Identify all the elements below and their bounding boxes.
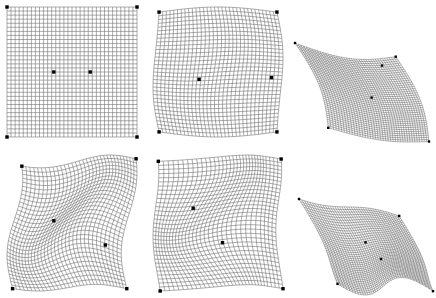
control-point-marker[interactable] bbox=[157, 10, 160, 13]
control-point-marker[interactable] bbox=[125, 287, 128, 290]
mesh-row-line bbox=[153, 79, 282, 81]
mesh-col-line bbox=[207, 7, 214, 137]
mesh-row-line bbox=[7, 239, 121, 258]
control-point-marker[interactable] bbox=[398, 215, 400, 217]
mesh-row-line bbox=[153, 75, 282, 77]
sheared-wave-surface-lattice bbox=[296, 196, 436, 298]
mesh-lines bbox=[7, 7, 137, 137]
control-point-marker[interactable] bbox=[135, 5, 138, 8]
mesh-lines bbox=[153, 7, 283, 137]
mesh-canvas bbox=[292, 40, 432, 145]
mesh-row-line bbox=[295, 43, 396, 59]
mesh-row-line bbox=[153, 87, 281, 89]
control-point-marker[interactable] bbox=[11, 287, 14, 290]
control-point-marker[interactable] bbox=[135, 135, 138, 138]
mesh-col-line bbox=[203, 7, 209, 137]
mesh-col-line bbox=[121, 159, 137, 289]
control-point-marker[interactable] bbox=[432, 290, 434, 292]
control-point-marker[interactable] bbox=[52, 219, 55, 222]
control-point-marker[interactable] bbox=[380, 258, 382, 260]
control-point-marker[interactable] bbox=[270, 76, 273, 79]
mesh-canvas bbox=[296, 196, 436, 298]
undeformed-square-lattice bbox=[4, 4, 140, 140]
mesh-col-line bbox=[199, 7, 205, 136]
control-point-marker[interactable] bbox=[192, 207, 195, 210]
mesh-row-line bbox=[23, 162, 137, 177]
mesh-row-line bbox=[155, 59, 283, 61]
mesh-lines bbox=[153, 155, 283, 291]
mesh-row-line bbox=[12, 210, 126, 232]
control-point-marker[interactable] bbox=[20, 164, 23, 167]
control-point-marker[interactable] bbox=[364, 241, 366, 243]
mesh-row-line bbox=[153, 91, 281, 93]
mesh-row-line bbox=[153, 216, 276, 229]
control-point-marker[interactable] bbox=[104, 243, 107, 246]
mesh-col-line bbox=[182, 158, 207, 288]
mesh-col-line bbox=[276, 159, 283, 289]
mesh-lines bbox=[295, 43, 429, 142]
mesh-col-line bbox=[28, 167, 51, 291]
mesh-col-line bbox=[303, 46, 336, 130]
mesh-col-line bbox=[227, 7, 233, 137]
mesh-col-line bbox=[169, 10, 174, 134]
control-point-marker[interactable] bbox=[157, 160, 160, 163]
mesh-row-line bbox=[155, 205, 278, 216]
mesh-row-line bbox=[153, 229, 276, 240]
control-point-marker[interactable] bbox=[298, 198, 300, 200]
mesh-row-line bbox=[155, 55, 283, 57]
control-point-marker[interactable] bbox=[5, 135, 8, 138]
control-point-marker[interactable] bbox=[294, 42, 296, 44]
deformation-figure bbox=[0, 0, 436, 298]
control-point-marker[interactable] bbox=[279, 157, 282, 160]
mesh-col-line bbox=[262, 10, 267, 134]
control-point-marker[interactable] bbox=[381, 64, 383, 66]
mesh-col-line bbox=[222, 155, 244, 285]
mesh-col-line bbox=[235, 8, 241, 137]
mesh-col-line bbox=[7, 166, 23, 289]
control-point-marker[interactable] bbox=[89, 70, 92, 73]
control-point-marker[interactable] bbox=[370, 96, 372, 98]
control-point-marker[interactable] bbox=[221, 241, 224, 244]
control-point-marker[interactable] bbox=[395, 55, 397, 57]
mesh-row-line bbox=[158, 155, 281, 161]
mesh-col-line bbox=[223, 7, 230, 137]
sheared-projected-lattice bbox=[292, 40, 432, 145]
mesh-canvas bbox=[4, 4, 140, 140]
control-point-marker[interactable] bbox=[428, 140, 430, 142]
mesh-col-line bbox=[195, 8, 201, 137]
mesh-canvas bbox=[150, 152, 286, 294]
control-point-marker[interactable] bbox=[275, 10, 278, 13]
control-point-marker[interactable] bbox=[327, 127, 329, 129]
mesh-col-line bbox=[314, 50, 347, 133]
control-point-marker[interactable] bbox=[134, 157, 137, 160]
mesh-row-line bbox=[154, 67, 283, 69]
mesh-col-line bbox=[19, 168, 39, 291]
control-point-marker[interactable] bbox=[157, 130, 160, 133]
mesh-col-line bbox=[268, 158, 275, 288]
mesh-col-line bbox=[231, 7, 237, 136]
barrel-bulge-lattice bbox=[150, 4, 286, 140]
mesh-row-line bbox=[153, 83, 281, 85]
mesh-col-line bbox=[338, 57, 370, 139]
mesh-row-line bbox=[153, 238, 276, 248]
mesh-canvas bbox=[150, 4, 286, 140]
control-point-marker[interactable] bbox=[197, 78, 200, 81]
control-point-marker[interactable] bbox=[281, 287, 284, 290]
control-point-marker[interactable] bbox=[336, 283, 338, 285]
control-point-marker[interactable] bbox=[275, 130, 278, 133]
mesh-canvas bbox=[4, 152, 140, 294]
control-point-marker[interactable] bbox=[5, 5, 8, 8]
mesh-col-line bbox=[320, 205, 361, 295]
wave-folded-lattice bbox=[150, 152, 286, 294]
control-point-marker[interactable] bbox=[158, 289, 161, 292]
mesh-lines bbox=[7, 155, 137, 291]
control-point-marker[interactable] bbox=[52, 70, 55, 73]
mesh-row-line bbox=[155, 51, 283, 53]
s-curve-warped-lattice bbox=[4, 152, 140, 294]
mesh-row-line bbox=[154, 63, 283, 65]
mesh-lines bbox=[299, 199, 433, 295]
